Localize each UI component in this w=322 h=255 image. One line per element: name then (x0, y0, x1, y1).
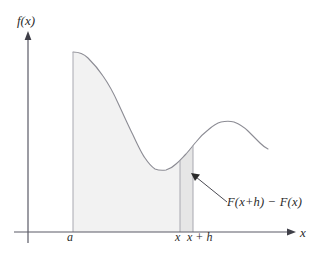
y-axis-label: f(x) (17, 14, 35, 27)
shaded-area-f-of-x (73, 52, 180, 232)
tick-label-a: a (67, 231, 73, 243)
y-axis-arrowhead (25, 31, 32, 40)
x-axis-label: x (300, 226, 306, 239)
annotation-leader-line (196, 177, 227, 202)
diagram-svg (0, 0, 322, 255)
annotation-label: F(x+h) − F(x) (227, 196, 302, 209)
x-axis-arrowhead (287, 229, 296, 236)
tick-label-x-plus-h: x + h (187, 231, 212, 243)
tick-label-x: x (175, 231, 180, 243)
figure-canvas: f(x) x a x x + h F(x+h) − F(x) (0, 0, 322, 255)
